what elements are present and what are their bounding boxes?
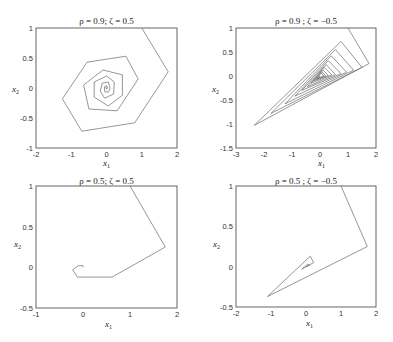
axes-box	[236, 186, 376, 307]
subplot-title: ρ = 0.9 ; ζ = −0.5	[275, 16, 337, 26]
y-tick-label: 0	[29, 263, 33, 272]
subplot-title: ρ = 0.9; ζ = 0.5	[79, 16, 134, 26]
y-tick-label: 1	[229, 24, 233, 33]
y-tick-label: 0.5	[223, 222, 233, 231]
y-tick-label: -0.5	[20, 304, 33, 313]
x-tick-label: 1	[128, 310, 132, 319]
y-tick-label: 0.5	[23, 54, 33, 63]
subplot-title: ρ = 0.5 ; ζ = −0.5	[275, 176, 337, 186]
trajectory-line	[268, 186, 368, 297]
y-tick-label: -0.5	[220, 303, 233, 312]
axes-box	[236, 28, 376, 148]
y-tick-label: 0.5	[223, 48, 233, 57]
y-axis-label: x2	[211, 84, 219, 95]
y-axis-label: x2	[13, 239, 21, 250]
y-tick-label: 1	[29, 182, 33, 191]
subplot-rho05-zeta-neg05: ρ = 0.5 ; ζ = −0.5 -2-1012-0.500.51 x1 x…	[212, 176, 378, 329]
subplot-rho05-zeta05: ρ = 0.5; ζ = 0.5 -1012-0.500.51 x1 x2	[13, 176, 179, 330]
subplot-rho09-zeta-neg05: ρ = 0.9 ; ζ = −0.5 -3-2-1012-1.5-1-0.500…	[211, 16, 378, 169]
figure: ρ = 0.9; ζ = 0.5 -2-1012-1-0.500.51 x1 x…	[0, 0, 393, 342]
x-axis-label: x1	[317, 158, 325, 169]
x-tick-label: 2	[374, 309, 378, 318]
y-tick-label: 1	[229, 182, 233, 191]
y-tick-label: -1.5	[220, 144, 233, 153]
axes-box	[36, 186, 177, 308]
x-axis-label: x1	[102, 158, 110, 169]
y-tick-label: 1	[29, 24, 33, 33]
x-tick-label: -1	[33, 310, 40, 319]
y-tick-label: -1	[226, 120, 233, 129]
subplot-rho09-zeta05: ρ = 0.9; ζ = 0.5 -2-1012-1-0.500.51 x1 x…	[11, 16, 179, 169]
x-axis-label: x1	[104, 319, 112, 330]
x-axis-label: x1	[305, 318, 313, 329]
x-tick-label: -1	[268, 309, 275, 318]
y-tick-label: 0	[229, 263, 233, 272]
x-tick-label: 1	[140, 150, 144, 159]
x-tick-label: -3	[233, 150, 240, 159]
x-tick-label: -2	[33, 150, 40, 159]
y-tick-label: -1	[26, 144, 33, 153]
x-tick-label: -2	[261, 150, 268, 159]
trajectory-line	[254, 28, 369, 125]
x-tick-label: -1	[289, 150, 296, 159]
subplot-title: ρ = 0.5; ζ = 0.5	[79, 176, 134, 186]
y-axis-label: x2	[11, 84, 19, 95]
tick-labels: -1012-0.500.51	[20, 182, 179, 319]
x-tick-label: -2	[233, 309, 240, 318]
x-tick-label: 2	[374, 150, 378, 159]
x-tick-label: 0	[304, 309, 308, 318]
y-tick-label: 0	[229, 72, 233, 81]
y-tick-label: 0.5	[23, 223, 33, 232]
y-axis-label: x2	[212, 239, 220, 250]
y-tick-label: 0	[29, 84, 33, 93]
x-tick-label: 1	[339, 309, 343, 318]
x-tick-label: 2	[175, 150, 179, 159]
trajectory-line	[62, 28, 168, 131]
trajectory-line	[73, 186, 166, 277]
x-tick-label: 2	[175, 310, 179, 319]
tick-labels: -2-1012-0.500.51	[220, 182, 378, 318]
y-tick-label: -0.5	[220, 96, 233, 105]
x-tick-label: 1	[346, 150, 350, 159]
y-tick-label: -0.5	[20, 114, 33, 123]
x-tick-label: -1	[68, 150, 75, 159]
x-tick-label: 0	[81, 310, 85, 319]
